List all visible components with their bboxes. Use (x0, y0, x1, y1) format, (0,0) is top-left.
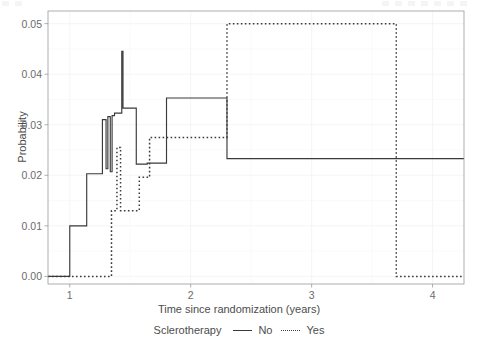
y-axis-title: Probability (16, 37, 28, 237)
legend-swatch-solid-icon (233, 325, 252, 336)
x-tick-label: 1 (50, 289, 90, 301)
legend-swatch-dotted-icon (281, 325, 300, 336)
x-axis-title: Time since randomization (years) (0, 303, 478, 315)
legend-title: Sclerotherapy (154, 324, 222, 336)
legend: Sclerotherapy No Yes (0, 324, 478, 336)
legend-label-no: No (258, 324, 272, 336)
x-tick-label: 4 (413, 289, 453, 301)
x-tick-label: 3 (292, 289, 332, 301)
legend-label-yes: Yes (306, 324, 324, 336)
x-axis-tick-labels: 1234 (0, 0, 478, 351)
legend-key-no[interactable]: No (233, 324, 272, 336)
x-tick-label: 2 (171, 289, 211, 301)
chart-figure: 0.000.010.020.030.040.05 1234 Probabilit… (0, 0, 478, 351)
legend-key-yes[interactable]: Yes (281, 324, 324, 336)
